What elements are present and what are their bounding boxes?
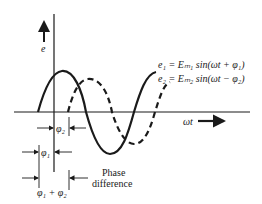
x-axis-label: ωt <box>183 116 193 127</box>
equation-e1: e₁ = Eₘ₁ sin(ωt + φ₁) <box>158 59 245 71</box>
equation-e2: e₂ = Eₘ₂ sin(ωt − φ₂) <box>158 73 245 85</box>
phi-sum-label: φ₁ + φ₂ <box>37 187 67 198</box>
phi1-label: φ₁ <box>41 147 50 158</box>
phase-label-line2: difference <box>92 178 133 189</box>
phi2-label: φ₂ <box>56 123 66 134</box>
diagram-svg: e ωt e₁ = Eₘ₁ sin(ωt + φ₁) e₂ = Eₘ₂ sin(… <box>0 0 262 204</box>
phase-difference-diagram: e ωt e₁ = Eₘ₁ sin(ωt + φ₁) e₂ = Eₘ₂ sin(… <box>0 0 262 204</box>
phase-label-line1: Phase <box>102 167 126 178</box>
y-axis-label: e <box>41 43 46 54</box>
